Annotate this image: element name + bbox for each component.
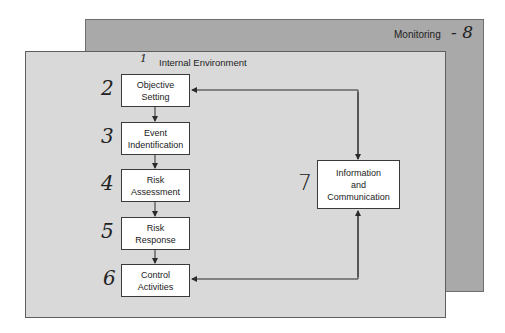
assessment-annotation: 4 — [101, 171, 114, 195]
information-communication-box: Information and Communication — [317, 160, 400, 209]
response-annotation: 5 — [101, 219, 114, 243]
risk-response-box: Risk Response — [121, 217, 190, 250]
control-annotation: 6 — [103, 266, 116, 290]
objective-setting-box: Objective Setting — [121, 74, 190, 107]
objective-annotation: 2 — [101, 76, 114, 100]
control-activities-box: Control Activities — [121, 264, 190, 297]
risk-assessment-box: Risk Assessment — [121, 169, 190, 202]
info-annotation: 7 — [298, 170, 312, 195]
event-identification-box: Event Indentification — [121, 122, 190, 155]
event-annotation: 3 — [101, 124, 114, 148]
connectors — [0, 0, 505, 333]
